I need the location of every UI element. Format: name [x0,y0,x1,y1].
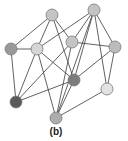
graph-node-G [68,74,80,86]
graph-node-H [101,83,113,95]
figure-caption: (b) [0,126,112,137]
graph-edge-D-J [16,49,37,102]
graph-edge-F-G [74,47,115,80]
graph-node-B [88,4,100,16]
graph-node-C [5,43,17,55]
graph-edge-D-I [37,49,56,118]
graph-edge-F-H [107,47,115,89]
graph-nodes [5,4,121,124]
graph-edge-C-J [11,49,16,102]
graph-node-D [31,43,43,55]
graph-node-F [109,41,121,53]
graph-edge-B-I [56,10,94,118]
graph-node-J [10,96,22,108]
graph-edge-E-F [72,42,115,47]
graph-edge-H-I [56,89,107,118]
graph-node-A [46,9,58,21]
network-graph [0,0,128,141]
graph-edges [11,10,115,118]
graph-edge-A-C [11,15,52,49]
graph-edge-E-J [16,42,72,102]
graph-node-E [66,36,78,48]
graph-node-I [50,112,62,124]
